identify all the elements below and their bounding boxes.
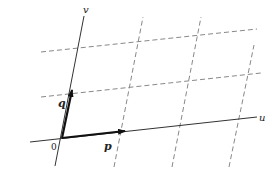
u-axis-label: u bbox=[259, 112, 265, 123]
origin-label: 0 bbox=[51, 142, 57, 152]
basis-vectors bbox=[62, 90, 125, 138]
vector-q-label: q bbox=[58, 97, 66, 110]
grid-line-v-2p bbox=[172, 17, 201, 167]
axes bbox=[30, 16, 257, 166]
grid-line-v-p bbox=[114, 17, 143, 167]
grid-line-v-3p bbox=[229, 45, 254, 167]
grid-lines-u-direction bbox=[41, 29, 261, 97]
vector-p-arrow bbox=[62, 131, 125, 138]
grid-line-u-2q bbox=[41, 29, 257, 52]
v-axis-label: v bbox=[83, 4, 89, 15]
v-axis bbox=[55, 16, 84, 166]
vector-p-label: p bbox=[104, 140, 112, 153]
grid-lines-v-direction bbox=[114, 17, 254, 167]
lattice-diagram: v u 0 p q bbox=[0, 0, 272, 178]
grid-line-u-q bbox=[41, 73, 261, 97]
